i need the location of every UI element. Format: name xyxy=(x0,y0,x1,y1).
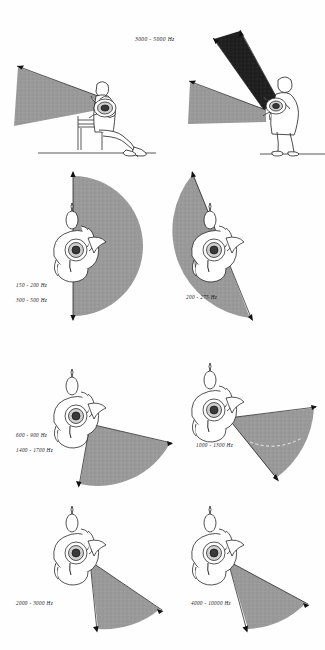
horn-directivity-figure: 3000 - 5000 Hz xyxy=(0,0,325,650)
arrowhead-icon xyxy=(93,626,99,633)
player-figure-standing xyxy=(269,77,299,156)
label-1000-1300: 1000 - 1300 Hz xyxy=(196,443,233,448)
label-1400-1700: 1400 - 1700 Hz xyxy=(16,448,53,453)
arrowhead-icon xyxy=(70,315,75,321)
arrowhead-icon xyxy=(70,171,75,177)
radiation-sector-grey xyxy=(228,561,306,629)
label-300-500: 300 - 500 Hz xyxy=(16,298,47,303)
arrowhead-icon xyxy=(167,441,173,446)
panel-top-4000-10000 xyxy=(188,505,318,635)
arrowhead-icon xyxy=(239,30,244,37)
label-2000-3000: 2000 - 3000 Hz xyxy=(16,601,53,606)
arrowhead-icon xyxy=(191,171,196,178)
arrowhead-icon xyxy=(311,405,317,410)
radiation-wedge-grey xyxy=(14,67,98,126)
label-150-200: 150 - 200 Hz xyxy=(16,283,47,288)
radiation-sector-grey xyxy=(228,408,314,478)
panel-top-1000-1300 xyxy=(188,360,323,490)
radiation-sector-grey xyxy=(80,424,170,486)
radiation-sector-grey xyxy=(90,561,160,629)
arrowhead-icon xyxy=(303,603,310,608)
arrowhead-icon xyxy=(157,609,164,614)
panel-top-150-500 xyxy=(50,168,160,323)
panel-top-600-1700 xyxy=(50,360,180,490)
player-figure-seated xyxy=(94,82,146,157)
arrowhead-icon xyxy=(76,481,82,488)
figure-title-label: 3000 - 5000 Hz xyxy=(135,37,175,43)
panel-side-seated xyxy=(4,50,164,160)
arrowhead-icon xyxy=(243,626,249,633)
label-200-275: 200 - 275 Hz xyxy=(186,295,217,300)
panel-side-standing xyxy=(180,26,325,161)
panel-top-2000-3000 xyxy=(50,505,175,635)
label-4000-10000: 4000 - 10000 Hz xyxy=(191,601,231,606)
label-600-900: 600 - 900 Hz xyxy=(16,433,47,438)
